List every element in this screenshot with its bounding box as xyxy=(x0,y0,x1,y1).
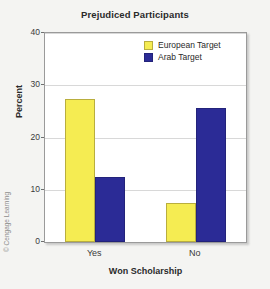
gridline xyxy=(45,85,246,86)
gridline xyxy=(45,33,246,34)
y-axis-label: Percent xyxy=(14,85,24,118)
chart-legend: European TargetArab Target xyxy=(140,38,225,67)
y-tick-label: 40 xyxy=(20,27,40,37)
x-tick-label: No xyxy=(165,248,225,258)
y-tick-label: 0 xyxy=(20,236,40,246)
x-tick-label: Yes xyxy=(64,248,124,258)
bar-no-arab-target xyxy=(196,108,226,242)
legend-item: European Target xyxy=(144,40,221,50)
x-axis-label: Won Scholarship xyxy=(44,266,247,276)
copyright-credit: © Cengage Learning xyxy=(3,192,10,252)
y-tick-label: 10 xyxy=(20,184,40,194)
bar-yes-arab-target xyxy=(95,177,125,242)
chart-title: Prejudiced Participants xyxy=(0,9,270,20)
y-tick-label: 30 xyxy=(20,79,40,89)
bar-chart-figure: Prejudiced Participants Percent 01020304… xyxy=(0,0,270,289)
legend-label: European Target xyxy=(158,40,221,50)
bar-no-european-target xyxy=(166,203,196,242)
y-tick-label: 20 xyxy=(20,132,40,142)
bar-yes-european-target xyxy=(65,99,95,242)
legend-swatch-icon xyxy=(144,53,153,62)
legend-item: Arab Target xyxy=(144,52,221,62)
legend-label: Arab Target xyxy=(158,52,202,62)
legend-swatch-icon xyxy=(144,41,153,50)
